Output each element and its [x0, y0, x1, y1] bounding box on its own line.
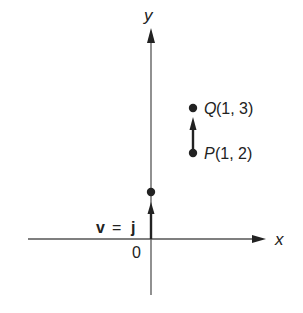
vector-v-label: v	[96, 219, 105, 236]
point-p	[189, 149, 197, 157]
point-q	[189, 104, 197, 112]
vector-j-label: j	[130, 219, 135, 236]
point-p-name: P	[204, 145, 215, 162]
coordinate-diagram: y x 0 v = j Q (1, 3) P (1, 2)	[0, 0, 303, 313]
y-axis-label: y	[143, 6, 154, 25]
vector-pq-arrowhead-icon	[190, 117, 197, 130]
point-p-coords: (1, 2)	[215, 145, 252, 162]
point-q-name: Q	[204, 100, 216, 117]
origin-label: 0	[132, 244, 141, 261]
x-axis-arrow-icon	[252, 235, 266, 243]
equals-sign: =	[112, 219, 121, 236]
vector-pq	[189, 104, 197, 157]
point-q-coords: (1, 3)	[216, 100, 253, 117]
x-axis	[28, 235, 266, 243]
x-axis-label: x	[274, 230, 284, 249]
vector-j-arrowhead-icon	[148, 202, 155, 214]
y-axis-arrow-icon	[147, 28, 155, 43]
y-axis	[147, 28, 155, 295]
vector-j	[147, 188, 155, 239]
point-j-endpoint	[147, 188, 155, 196]
